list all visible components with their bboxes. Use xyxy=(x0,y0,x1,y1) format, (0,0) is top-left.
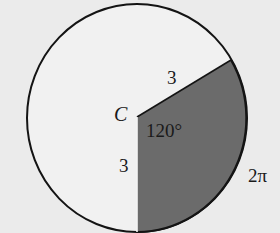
angle-label: 120° xyxy=(146,121,182,140)
center-label: C xyxy=(114,104,127,124)
radius-label-upper: 3 xyxy=(167,68,177,87)
arc-length-label: 2π xyxy=(248,166,267,185)
circle-figure xyxy=(0,0,280,233)
radius-label-lower: 3 xyxy=(119,156,129,175)
circle-sector-diagram: C 120° 3 3 2π xyxy=(0,0,280,233)
